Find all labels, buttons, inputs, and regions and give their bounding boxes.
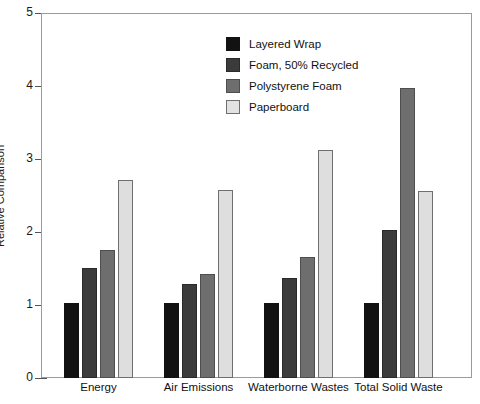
bar [318,150,333,378]
x-axis-category-label: Total Solid Waste [339,381,459,393]
legend-swatch-icon [226,37,240,51]
legend-item-label: Foam, 50% Recycled [249,58,358,72]
bar [118,180,133,378]
legend-swatch-icon [226,79,240,93]
legend-item-label: Polystyrene Foam [249,79,342,93]
bar [82,268,97,378]
bar [418,191,433,378]
bar [100,250,115,378]
bar [164,303,179,378]
legend-item-label: Paperboard [249,100,309,114]
bar [382,230,397,378]
legend-item: Foam, 50% Recycled [226,55,358,74]
bar [364,303,379,378]
bar [218,190,233,378]
bar [64,303,79,378]
bar [400,88,415,378]
legend-swatch-icon [226,100,240,114]
legend-swatch-icon [226,58,240,72]
bar-chart: Relative Comparison543210 EnergyAir Emis… [0,0,480,404]
bar [300,257,315,378]
legend-item: Layered Wrap [226,34,358,53]
legend: Layered WrapFoam, 50% RecycledPolystyren… [226,34,358,118]
legend-item: Polystyrene Foam [226,76,358,95]
bar [200,274,215,378]
bar [282,278,297,378]
legend-item-label: Layered Wrap [249,37,321,51]
legend-item: Paperboard [226,97,358,116]
bar [264,303,279,378]
bar [182,284,197,378]
